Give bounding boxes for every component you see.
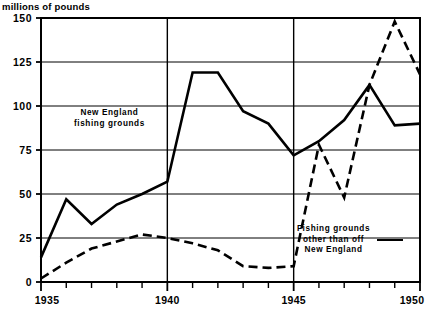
- chart-plot-area: 0255075100125150 1935194019451950: [0, 0, 447, 312]
- y-tick-label: 125: [13, 56, 32, 68]
- x-tick-label: 1935: [35, 294, 60, 306]
- annotation-new-england-line2: fishing grounds: [74, 119, 145, 130]
- annotation-other-line1: Fishing grounds: [297, 224, 370, 235]
- x-tick-label: 1940: [155, 294, 180, 306]
- y-tick-label: 150: [13, 12, 32, 24]
- y-tick-label: 25: [19, 232, 32, 244]
- y-axis-tick-labels: 0255075100125150: [13, 12, 32, 288]
- annotation-leader-line: [377, 239, 403, 241]
- y-tick-label: 100: [13, 100, 32, 112]
- annotation-new-england: New England fishing grounds: [74, 108, 145, 129]
- annotation-other-line2: other than off: [297, 235, 370, 246]
- y-tick-label: 75: [19, 144, 32, 156]
- annotation-other-line3: New England: [297, 245, 370, 256]
- annotation-new-england-line1: New England: [74, 108, 145, 119]
- annotation-other-grounds: Fishing grounds other than off New Engla…: [297, 224, 370, 256]
- x-tick-label: 1950: [400, 294, 425, 306]
- x-axis-tick-labels: 1935194019451950: [35, 294, 425, 306]
- y-tick-label: 50: [19, 188, 32, 200]
- y-tick-label: 0: [26, 276, 32, 288]
- chart-container: millions of pounds 0255075100125150 1935…: [0, 0, 447, 312]
- x-tick-label: 1945: [281, 294, 306, 306]
